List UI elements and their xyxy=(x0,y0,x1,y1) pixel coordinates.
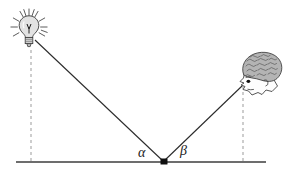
bulb-glass xyxy=(19,16,39,38)
angle-label-alpha: α xyxy=(138,146,145,160)
observer-head-icon xyxy=(240,52,282,95)
angle-label-beta: β xyxy=(180,144,187,158)
bulb-contact xyxy=(27,44,31,47)
light-bulb-icon xyxy=(11,9,47,47)
reflection-diagram: α β xyxy=(0,0,290,176)
eye-icon xyxy=(247,80,251,83)
reflected-ray xyxy=(164,86,242,161)
bulb-base xyxy=(25,37,33,43)
reflection-point-marker xyxy=(161,159,168,165)
incident-ray xyxy=(35,40,163,161)
